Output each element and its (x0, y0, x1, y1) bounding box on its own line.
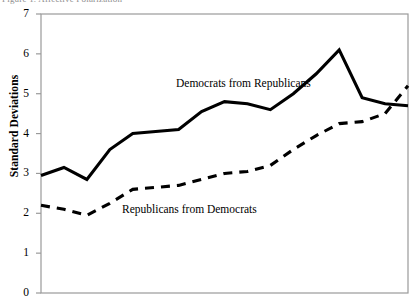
y-axis-tick-label: 2 (13, 207, 29, 219)
series-line-democrats-from-republicans (41, 50, 408, 180)
y-axis-ticks (36, 14, 41, 293)
y-axis-tick-label: 5 (13, 88, 29, 100)
y-axis-tick-label: 1 (13, 247, 29, 259)
y-axis-tick-label: 7 (13, 8, 29, 20)
series-label-republicans-from-democrats: Republicans from Democrats (122, 203, 257, 215)
figure-container: Figure 1. Affective Polarization Standar… (0, 0, 420, 306)
axis-frame (41, 14, 408, 293)
series-line-republicans-from-democrats (41, 86, 408, 216)
y-axis-tick-label: 3 (13, 167, 29, 179)
line-chart-plot (0, 0, 420, 306)
y-axis-tick-label: 0 (13, 287, 29, 299)
series-label-democrats-from-republicans: Democrats from Republicans (176, 77, 311, 89)
clipped-header-text: Figure 1. Affective Polarization (2, 0, 122, 4)
y-axis-tick-label: 4 (13, 128, 29, 140)
y-axis-tick-label: 6 (13, 48, 29, 60)
plot-frame (41, 14, 408, 293)
